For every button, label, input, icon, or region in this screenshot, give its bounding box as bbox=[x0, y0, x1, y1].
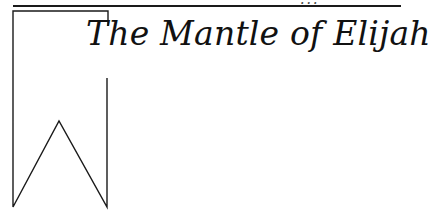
chapter-title: The Mantle of Elijah bbox=[86, 14, 431, 53]
